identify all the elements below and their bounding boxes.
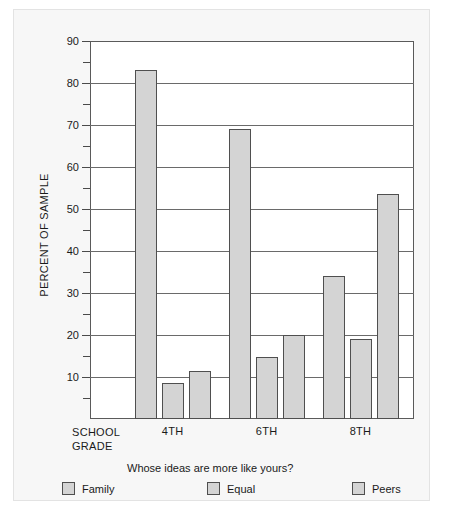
y-tick-label: 80	[57, 77, 79, 89]
y-tick-label: 60	[57, 161, 79, 173]
y-tick-minor	[83, 230, 90, 231]
y-tick-minor	[83, 398, 90, 399]
y-tick-minor	[83, 146, 90, 147]
y-tick-major	[82, 293, 90, 294]
legend: FamilyEqualPeers	[62, 482, 402, 502]
chart-figure: PERCENT OF SAMPLE 102030405060708090 4TH…	[13, 9, 430, 501]
y-tick-label: 70	[57, 119, 79, 131]
bar-8th-peers	[377, 194, 399, 419]
bar-4th-family	[135, 70, 157, 419]
x-axis-title: SCHOOL GRADE	[72, 425, 120, 453]
legend-swatch-equal	[207, 482, 220, 495]
x-tick-label-4th: 4TH	[162, 425, 184, 437]
y-tick-minor	[83, 356, 90, 357]
y-tick-major	[82, 251, 90, 252]
y-tick-major	[82, 167, 90, 168]
y-tick-minor	[83, 314, 90, 315]
bar-6th-family	[229, 129, 251, 419]
bar-8th-family	[323, 276, 345, 419]
y-tick-major	[82, 209, 90, 210]
legend-title: Whose ideas are more like yours?	[127, 462, 293, 474]
y-tick-label: 50	[57, 203, 79, 215]
y-tick-label: 30	[57, 287, 79, 299]
plot-area: 102030405060708090 4TH6TH8TH	[90, 41, 414, 419]
y-tick-label: 10	[57, 371, 79, 383]
y-tick-minor	[83, 104, 90, 105]
bar-6th-peers	[283, 335, 305, 419]
y-tick-major	[82, 125, 90, 126]
x-axis-title-line2: GRADE	[72, 439, 120, 453]
legend-label-family: Family	[82, 483, 114, 495]
y-tick-major	[82, 83, 90, 84]
y-tick-major	[82, 377, 90, 378]
legend-item-equal: Equal	[207, 482, 255, 495]
x-tick-label-6th: 6TH	[256, 425, 278, 437]
y-tick-minor	[83, 188, 90, 189]
x-tick-label-8th: 8TH	[350, 425, 372, 437]
bar-4th-peers	[189, 371, 211, 419]
y-tick-minor	[83, 62, 90, 63]
legend-label-equal: Equal	[227, 483, 255, 495]
y-tick-major	[82, 335, 90, 336]
y-tick-minor	[83, 272, 90, 273]
legend-swatch-family	[62, 482, 75, 495]
bar-8th-equal	[350, 339, 372, 419]
y-tick-major	[82, 41, 90, 42]
bar-4th-equal	[162, 383, 184, 419]
x-axis-title-line1: SCHOOL	[72, 425, 120, 439]
y-tick-label: 90	[57, 35, 79, 47]
bar-6th-equal	[256, 357, 278, 419]
legend-swatch-peers	[352, 482, 365, 495]
y-tick-label: 40	[57, 245, 79, 257]
legend-item-peers: Peers	[352, 482, 401, 495]
legend-label-peers: Peers	[372, 483, 401, 495]
legend-item-family: Family	[62, 482, 114, 495]
y-tick-label: 20	[57, 329, 79, 341]
y-axis-title: PERCENT OF SAMPLE	[38, 173, 50, 296]
